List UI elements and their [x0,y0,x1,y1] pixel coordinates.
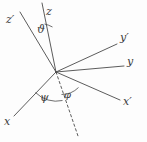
axis-label-z: z [46,6,52,17]
axes-canvas [0,0,147,142]
euler-angle-diagram: z′ z y′ y x′ x ϑ ψ φ [0,0,147,142]
axis-label-y-prime: y′ [120,32,129,43]
axis-label-x-prime: x′ [123,96,132,107]
angle-label-psi: ψ [40,92,49,103]
angle-label-phi: φ [64,90,71,100]
angle-label-theta: ϑ [37,24,45,35]
axis-line-node-line [56,72,78,136]
axis-line-x [14,72,56,116]
axis-label-y: y [127,56,133,67]
axis-line-z-prime [20,12,56,72]
axis-label-z-prime: z′ [6,14,14,25]
angle-arc-theta [45,24,53,27]
axis-label-x: x [4,116,10,127]
